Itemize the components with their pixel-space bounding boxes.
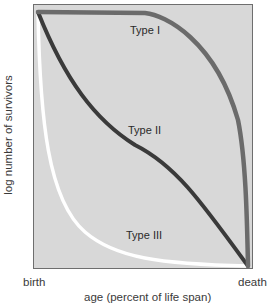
y-axis-label: log number of survivors: [2, 70, 16, 200]
x-axis-label: age (percent of life span): [84, 291, 211, 303]
x-tick-birth: birth: [23, 276, 45, 288]
type-iii-label: Type III: [126, 229, 162, 241]
x-tick-death: death: [238, 276, 267, 288]
survivorship-chart: [0, 0, 273, 306]
type-ii-label: Type II: [128, 124, 161, 136]
type-i-label: Type I: [130, 24, 160, 36]
